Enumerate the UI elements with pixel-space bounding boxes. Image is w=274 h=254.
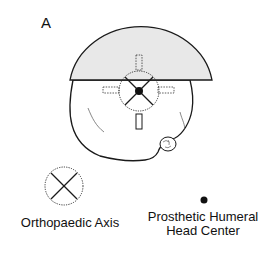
filled-dot-icon [201,197,208,204]
tuberosity-nodule [160,137,176,151]
dotted-circle-x-icon [45,167,83,205]
humeral-head-cap [70,27,212,80]
legend-label-head-center-line1: Prosthetic Humeral [140,210,266,224]
legend-label-head-center: Prosthetic Humeral Head Center [140,210,266,238]
legend-label-head-center-line2: Head Center [140,224,266,238]
legend-label-orthopaedic-axis: Orthopaedic Axis [8,216,132,230]
head-center-dot [135,87,143,95]
